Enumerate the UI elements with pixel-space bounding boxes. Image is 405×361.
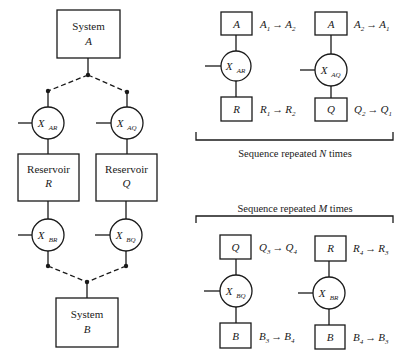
system-a-label: System — [72, 20, 105, 32]
caption-sequence-n: Sequence repeated N times — [238, 148, 351, 159]
system-b-box: System B — [56, 298, 118, 347]
svg-text:B: B — [327, 331, 334, 343]
seq-n-transition-r: R1→R2 — [259, 103, 296, 118]
seq-n-transition-a2: A2→A1 — [353, 18, 389, 33]
svg-text:X: X — [225, 60, 234, 72]
svg-text:Reservoir: Reservoir — [27, 163, 70, 175]
reservoir-q-box: Reservoir Q — [96, 154, 157, 201]
svg-text:X: X — [318, 287, 327, 299]
svg-text:BR: BR — [330, 294, 339, 302]
system-b-symbol: B — [84, 323, 91, 335]
reservoir-r-box: Reservoir R — [18, 154, 79, 201]
system-a-symbol: A — [84, 35, 92, 47]
dashed-link-b-q — [87, 266, 126, 282]
svg-text:X: X — [320, 64, 329, 76]
seq-n-transition-a: A1→A2 — [259, 18, 296, 33]
svg-text:Q: Q — [327, 103, 335, 115]
svg-text:Q: Q — [232, 241, 240, 253]
svg-text:AR: AR — [48, 124, 58, 132]
svg-text:X: X — [116, 117, 125, 129]
svg-text:X: X — [37, 229, 46, 241]
svg-text:R: R — [232, 103, 240, 115]
svg-text:A: A — [232, 18, 240, 30]
system-b-label: System — [71, 308, 104, 320]
operator-x-br: X BR — [18, 219, 64, 251]
svg-text:BQ: BQ — [236, 292, 245, 300]
svg-text:X: X — [115, 229, 124, 241]
svg-text:AQ: AQ — [126, 124, 136, 132]
svg-text:Reservoir: Reservoir — [105, 163, 148, 175]
svg-text:B: B — [232, 330, 239, 342]
operator-x-ar: X AR — [18, 107, 64, 139]
svg-text:X: X — [37, 117, 46, 129]
dashed-link-a-r — [48, 75, 88, 91]
left-diagram: System A X AR X AQ Reservoir — [18, 10, 157, 347]
seq-n-col1: A A1→A2 X AR R R1→R2 — [205, 12, 296, 121]
sequence-n-panel: A A1→A2 X AR R R1→R2 A A2→A1 X AQ Q Q2→Q… — [196, 12, 393, 159]
caption-sequence-m: Sequence repeated M times — [237, 203, 352, 214]
operator-x-aq: X AQ — [96, 107, 143, 139]
bracket-m — [196, 216, 393, 223]
seq-m-col2: R R4→R3 X BR B B4→B3 — [298, 236, 389, 349]
svg-text:AR: AR — [236, 67, 246, 75]
seq-m-transition-q: Q3→Q4 — [259, 241, 297, 256]
seq-m-transition-b2: B4→B3 — [353, 331, 389, 346]
svg-text:X: X — [225, 285, 234, 297]
svg-text:BQ: BQ — [126, 236, 135, 244]
dashed-link-a-q — [88, 75, 127, 92]
sequence-m-panel: Sequence repeated M times Q Q3→Q4 X BQ B… — [196, 203, 393, 349]
svg-text:R: R — [44, 177, 52, 189]
seq-m-transition-r: R4→R3 — [352, 242, 389, 257]
svg-text:Q: Q — [123, 177, 131, 189]
seq-n-col2: A A2→A1 X AQ Q Q2→Q1 — [300, 12, 392, 121]
system-a-box: System A — [57, 10, 120, 58]
seq-n-transition-q: Q2→Q1 — [354, 103, 392, 118]
svg-text:AQ: AQ — [330, 71, 340, 79]
svg-text:R: R — [326, 242, 334, 254]
dashed-link-b-r — [48, 266, 87, 282]
svg-text:A: A — [327, 18, 335, 30]
operator-x-bq: X BQ — [95, 219, 142, 251]
diagram-canvas: System A X AR X AQ Reservoir — [0, 0, 405, 361]
svg-text:BR: BR — [49, 236, 58, 244]
seq-m-col1: Q Q3→Q4 X BQ B B3→B4 — [204, 235, 297, 348]
bracket-n — [196, 132, 393, 140]
seq-m-transition-b1: B3→B4 — [259, 330, 295, 345]
